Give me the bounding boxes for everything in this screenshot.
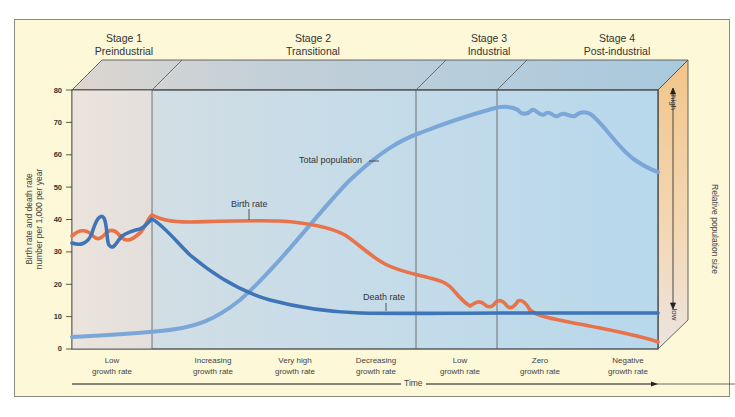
total-population-label: Total population [299,155,362,165]
time-axis-label: Time [401,378,426,388]
stage1-area [72,90,152,349]
y-tick-50: 50 [42,183,62,192]
y-ticks [66,90,72,349]
stage-3-label: Stage 3Industrial [468,32,511,58]
y-tick-20: 20 [42,280,62,289]
demographic-transition-chart [0,0,735,417]
time-arrowhead [651,382,658,387]
y-tick-60: 60 [42,150,62,159]
stage-2-label: Stage 2Transitional [286,32,340,58]
y-axis-label: Birth rate and death ratenumber per 1,00… [24,169,44,270]
growth-phase-4: Decreasinggrowth rate [356,356,396,377]
y-tick-70: 70 [42,118,62,127]
y-tick-10: 10 [42,312,62,321]
growth-phase-1: Lowgrowth rate [92,356,132,377]
growth-phase-2: Increasinggrowth rate [193,356,233,377]
growth-phase-6: Zerogrowth rate [520,356,560,377]
y-tick-40: 40 [42,215,62,224]
y-tick-30: 30 [42,247,62,256]
stage-1-label: Stage 1Preindustrial [95,32,153,58]
y-tick-0: 0 [42,344,62,353]
stage-4-label: Stage 4Post-industrial [584,32,651,58]
growth-phase-5: Lowgrowth rate [440,356,480,377]
top-face [72,60,688,90]
high-label: high [669,95,678,110]
growth-phase-7: Negativegrowth rate [608,356,648,377]
y-tick-80: 80 [42,86,62,95]
low-label: low [670,308,679,320]
growth-phase-3: Very highgrowth rate [275,356,315,377]
death-rate-label: Death rate [363,292,405,302]
right-axis-label: Relative population size [710,184,720,274]
birth-rate-label: Birth rate [231,199,268,209]
